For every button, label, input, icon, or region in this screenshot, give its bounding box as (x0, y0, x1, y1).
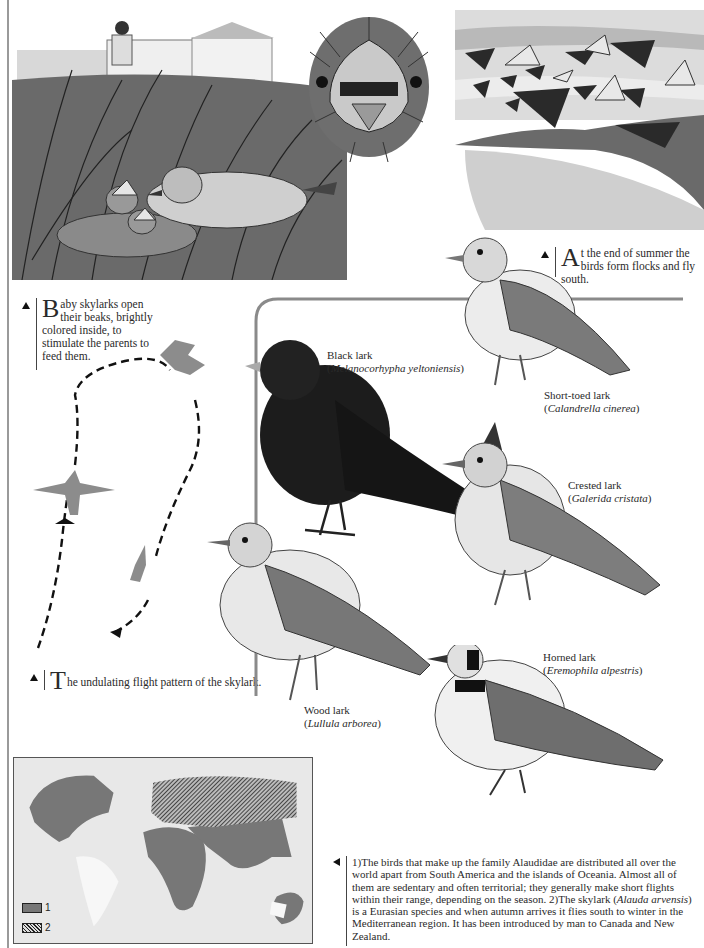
body-text-marker (333, 856, 353, 946)
caption-divider (44, 670, 45, 690)
triangle-left-icon (333, 858, 340, 866)
legend-item-2: 2 (22, 922, 51, 933)
species-common-name: Crested lark (568, 479, 651, 492)
dropcap: T (50, 670, 66, 692)
page-margin-rule (7, 0, 9, 948)
species-label-black-lark: Black lark (Melanocorhypha yeltoniensis) (327, 349, 464, 375)
legend-swatch-hatched (22, 923, 42, 933)
flock-migration-illustration (445, 10, 704, 230)
species-label-wood-lark: Wood lark (Lullula arborea) (304, 704, 381, 730)
species-common-name: Black lark (327, 349, 464, 362)
crested-lark-illustration (440, 420, 665, 610)
species-common-name: Wood lark (304, 704, 381, 717)
distribution-map: 1 2 (13, 757, 313, 944)
nest-scene-illustration (12, 10, 347, 280)
short-toed-lark-illustration (440, 230, 640, 390)
species-label-crested-lark: Crested lark (Galerida cristata) (568, 479, 651, 505)
species-common-name: Horned lark (543, 651, 643, 664)
species-label-horned-lark: Horned lark (Eremophila alpestris) (543, 651, 643, 677)
species-label-short-toed-lark: Short-toed lark (Calandrella cinerea) (544, 389, 639, 415)
species-scientific-name: Eremophila alpestris (547, 664, 639, 676)
flight-pattern-diagram (20, 300, 220, 655)
chick-open-beak-illustration (300, 12, 438, 167)
species-scientific-name: Calandrella cinerea (548, 402, 636, 414)
species-scientific-name: Melanocorhypha yeltoniensis (331, 362, 461, 374)
wood-lark-illustration (205, 520, 430, 705)
species-common-name: Short-toed lark (544, 389, 639, 402)
species-scientific-name: Lullula arborea (308, 717, 378, 729)
distribution-description: 1)The birds that make up the family Alau… (352, 856, 697, 942)
triangle-up-icon (30, 674, 38, 681)
legend-item-1: 1 (22, 902, 51, 913)
caption-divider (346, 856, 347, 946)
legend-swatch-solid (22, 903, 42, 913)
species-scientific-name: Galerida cristata (572, 492, 648, 504)
